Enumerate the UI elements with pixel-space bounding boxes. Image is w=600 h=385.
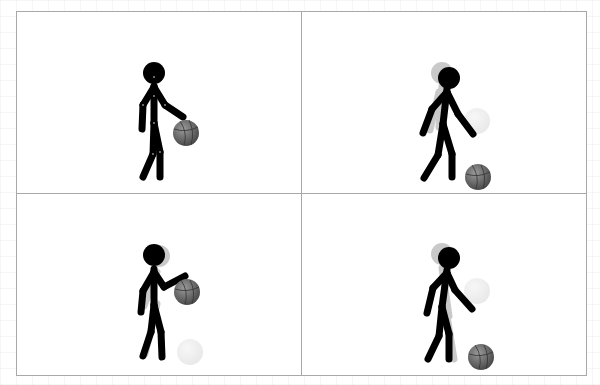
basketball-icon xyxy=(468,344,494,370)
frame-sheet: Frame 1 Frame 2 xyxy=(16,11,587,376)
frame-panel-3[interactable]: Frame 3 xyxy=(16,193,302,376)
stick-figure-icon xyxy=(17,12,303,195)
stick-figure-icon xyxy=(302,12,588,195)
frame-panel-2[interactable]: Frame 2 xyxy=(301,11,587,194)
stick-figure-icon xyxy=(302,194,588,377)
stick-figure-icon xyxy=(17,194,303,377)
frame-panel-4[interactable]: Frame 4 xyxy=(301,193,587,376)
frame-panel-1[interactable]: Frame 1 xyxy=(16,11,302,194)
basketball-icon xyxy=(173,120,199,146)
basketball-icon xyxy=(174,279,200,305)
basketball-icon xyxy=(465,164,491,190)
